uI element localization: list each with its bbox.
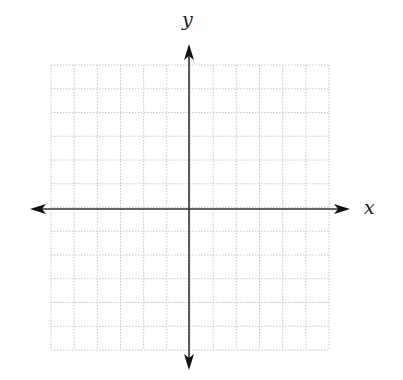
grid-lines — [51, 65, 329, 350]
coordinate-plane — [0, 0, 403, 380]
y-axis-label: y — [182, 8, 193, 30]
x-axis-label: x — [364, 196, 375, 218]
